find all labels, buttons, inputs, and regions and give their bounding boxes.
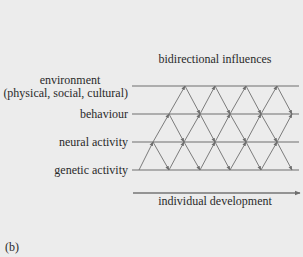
influence-arrow	[246, 142, 261, 170]
influence-arrow	[215, 114, 230, 142]
influence-arrow	[277, 142, 292, 170]
influence-arrow	[246, 86, 261, 114]
influence-arrow	[277, 86, 292, 114]
influence-arrow	[230, 114, 246, 142]
developmental-systems-diagram	[0, 0, 303, 257]
influence-arrow	[215, 142, 230, 170]
influence-arrow	[153, 142, 169, 170]
genetic-activity-label: genetic activity	[0, 164, 128, 177]
diagram-title: bidirectional influences	[150, 53, 280, 66]
influence-arrow	[261, 114, 277, 142]
influence-arrow	[230, 86, 246, 114]
development-axis-label: individual development	[150, 195, 280, 208]
panel-label: (b)	[5, 241, 19, 254]
influence-arrow	[200, 142, 215, 170]
bidirectional-arrows	[139, 86, 292, 170]
influence-arrow	[246, 114, 261, 142]
influence-arrow	[184, 114, 200, 142]
influence-arrow	[139, 142, 153, 170]
influence-arrow	[261, 142, 277, 170]
influence-arrow	[184, 142, 200, 170]
influence-arrow	[169, 86, 185, 114]
behaviour-label: behaviour	[0, 108, 128, 121]
influence-arrow	[200, 114, 215, 142]
level-lines	[132, 86, 299, 170]
influence-arrow	[261, 86, 277, 114]
influence-arrow	[169, 114, 184, 142]
influence-arrow	[277, 114, 292, 142]
neural-activity-label: neural activity	[0, 136, 128, 149]
influence-arrow	[215, 86, 230, 114]
influence-arrow	[200, 86, 215, 114]
influence-arrow	[169, 142, 184, 170]
influence-arrow	[153, 114, 169, 142]
influence-arrow	[185, 86, 200, 114]
influence-arrow	[230, 142, 246, 170]
environment-sublabel: (physical, social, cultural)	[0, 87, 128, 100]
